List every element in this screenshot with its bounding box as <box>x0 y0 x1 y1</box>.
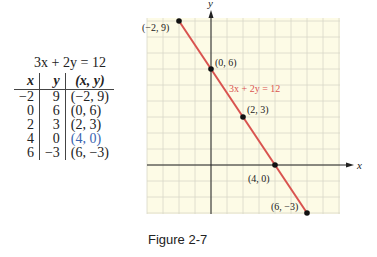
y-axis-arrow-icon <box>209 10 214 18</box>
point-label: (−2, 9) <box>142 22 169 34</box>
x-axis-label: x <box>356 159 362 171</box>
y-axis-label: y <box>207 0 213 9</box>
data-point <box>176 18 182 24</box>
data-point <box>272 162 278 168</box>
data-point <box>304 210 310 216</box>
point-label: (6, −3) <box>271 201 298 213</box>
point-label: (0, 6) <box>215 57 237 69</box>
equation-label: 3x + 2y = 12 <box>229 83 280 94</box>
point-label: (4, 0) <box>248 173 270 185</box>
data-point <box>240 114 246 120</box>
data-point <box>208 66 214 72</box>
graph: xy(−2, 9)(0, 6)(2, 3)(4, 0)(6, −3)3x + 2… <box>0 0 377 257</box>
x-axis-arrow-icon <box>346 163 354 168</box>
point-label: (2, 3) <box>247 104 269 116</box>
figure-caption: Figure 2-7 <box>148 232 207 247</box>
